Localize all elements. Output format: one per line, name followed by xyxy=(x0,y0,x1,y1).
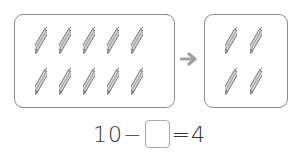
pencil-icon xyxy=(59,64,71,98)
arrow-right-icon xyxy=(180,52,198,66)
minuend: 10 xyxy=(93,122,123,147)
difference: 4 xyxy=(191,122,206,147)
pencil-icon xyxy=(250,23,262,57)
minus-sign: − xyxy=(123,122,142,147)
answer-blank-input[interactable] xyxy=(145,120,170,148)
pencil-icon xyxy=(131,64,143,98)
pencil-icon xyxy=(35,64,47,98)
pencil-icon xyxy=(225,23,237,57)
pencil-icon xyxy=(107,23,119,57)
subtraction-equation: 10 − = 4 xyxy=(0,116,299,152)
pencil-icon xyxy=(107,64,119,98)
pencil-icon xyxy=(83,23,95,57)
pencil-icon xyxy=(225,64,237,98)
equals-sign: = xyxy=(172,122,191,147)
pencils-after-box xyxy=(204,14,288,108)
pencil-icon xyxy=(83,64,95,98)
pencil-icon xyxy=(250,64,262,98)
pencil-icon xyxy=(131,23,143,57)
pencil-icon xyxy=(35,23,47,57)
pencils-before-box xyxy=(14,14,175,108)
pencil-icon xyxy=(59,23,71,57)
